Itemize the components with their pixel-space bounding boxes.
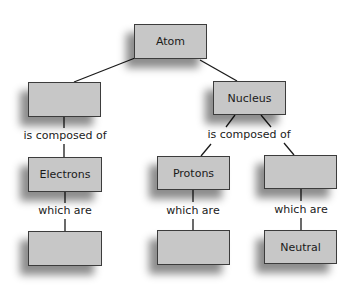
concept-map: Atom Nucleus is composed of is composed …: [0, 0, 354, 288]
node-left-blank: [28, 82, 101, 117]
node-right-blank: [264, 155, 337, 189]
node-atom: Atom: [134, 24, 207, 59]
node-protons-property: [157, 230, 230, 265]
node-neutral-label: Neutral: [280, 241, 321, 254]
node-protons: Protons: [157, 156, 230, 190]
node-electrons: Electrons: [28, 157, 102, 192]
link-nucleus-composed: is composed of: [207, 128, 290, 141]
node-protons-label: Protons: [173, 167, 214, 180]
node-nucleus: Nucleus: [213, 81, 286, 115]
link-protons-which: which are: [166, 204, 219, 217]
node-atom-label: Atom: [156, 35, 185, 48]
link-right-which: which are: [274, 203, 327, 216]
node-electrons-property: [28, 231, 102, 266]
link-left-composed: is composed of: [23, 129, 106, 142]
node-nucleus-label: Nucleus: [228, 92, 272, 105]
node-electrons-label: Electrons: [40, 168, 91, 181]
link-electrons-which: which are: [38, 204, 91, 217]
node-neutral: Neutral: [264, 230, 337, 264]
